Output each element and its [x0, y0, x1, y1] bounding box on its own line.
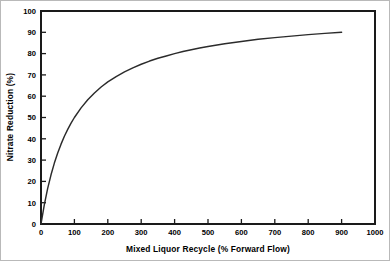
- plot-background: [41, 11, 375, 224]
- y-tick-label: 10: [28, 199, 36, 208]
- y-tick-label: 30: [28, 156, 36, 165]
- y-axis-tick-labels: 0102030405060708090100: [23, 7, 36, 229]
- x-axis-tick-labels: 01002003004005006007008009001000: [39, 228, 384, 237]
- y-axis-title: Nitrate Reduction (%): [5, 73, 15, 161]
- chart-figure: 01002003004005006007008009001000 0102030…: [0, 0, 390, 261]
- x-tick-label: 200: [101, 228, 114, 237]
- y-tick-label: 20: [28, 177, 36, 186]
- x-tick-label: 700: [268, 228, 281, 237]
- x-tick-label: 600: [235, 228, 248, 237]
- x-tick-label: 400: [168, 228, 181, 237]
- y-tick-label: 60: [28, 92, 36, 101]
- y-tick-label: 40: [28, 135, 36, 144]
- y-tick-label: 50: [28, 113, 36, 122]
- x-tick-label: 500: [202, 228, 215, 237]
- y-tick-label: 90: [28, 28, 36, 37]
- x-tick-label: 900: [335, 228, 348, 237]
- x-tick-label: 1000: [367, 228, 384, 237]
- x-tick-label: 100: [68, 228, 81, 237]
- x-tick-label: 800: [302, 228, 315, 237]
- y-tick-label: 80: [28, 49, 36, 58]
- y-tick-label: 70: [28, 71, 36, 80]
- x-tick-label: 300: [135, 228, 148, 237]
- x-tick-label: 0: [39, 228, 43, 237]
- y-tick-label: 100: [23, 7, 36, 16]
- y-tick-label: 0: [32, 220, 36, 229]
- nitrate-reduction-line-chart: 01002003004005006007008009001000 0102030…: [0, 0, 390, 261]
- x-axis-title: Mixed Liquor Recycle (% Forward Flow): [126, 244, 290, 254]
